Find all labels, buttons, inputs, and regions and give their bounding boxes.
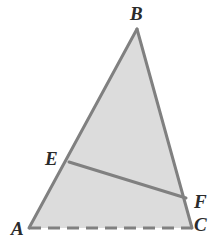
vertex-label-e: E [45,149,58,168]
geometry-diagram [0,0,224,242]
vertex-label-b: B [130,4,143,23]
vertex-label-f: F [194,192,207,211]
geometry-figure: A B C E F [0,0,224,242]
vertex-label-c: C [194,215,207,234]
shaded-triangle-region [29,29,192,228]
vertex-label-a: A [11,219,24,238]
